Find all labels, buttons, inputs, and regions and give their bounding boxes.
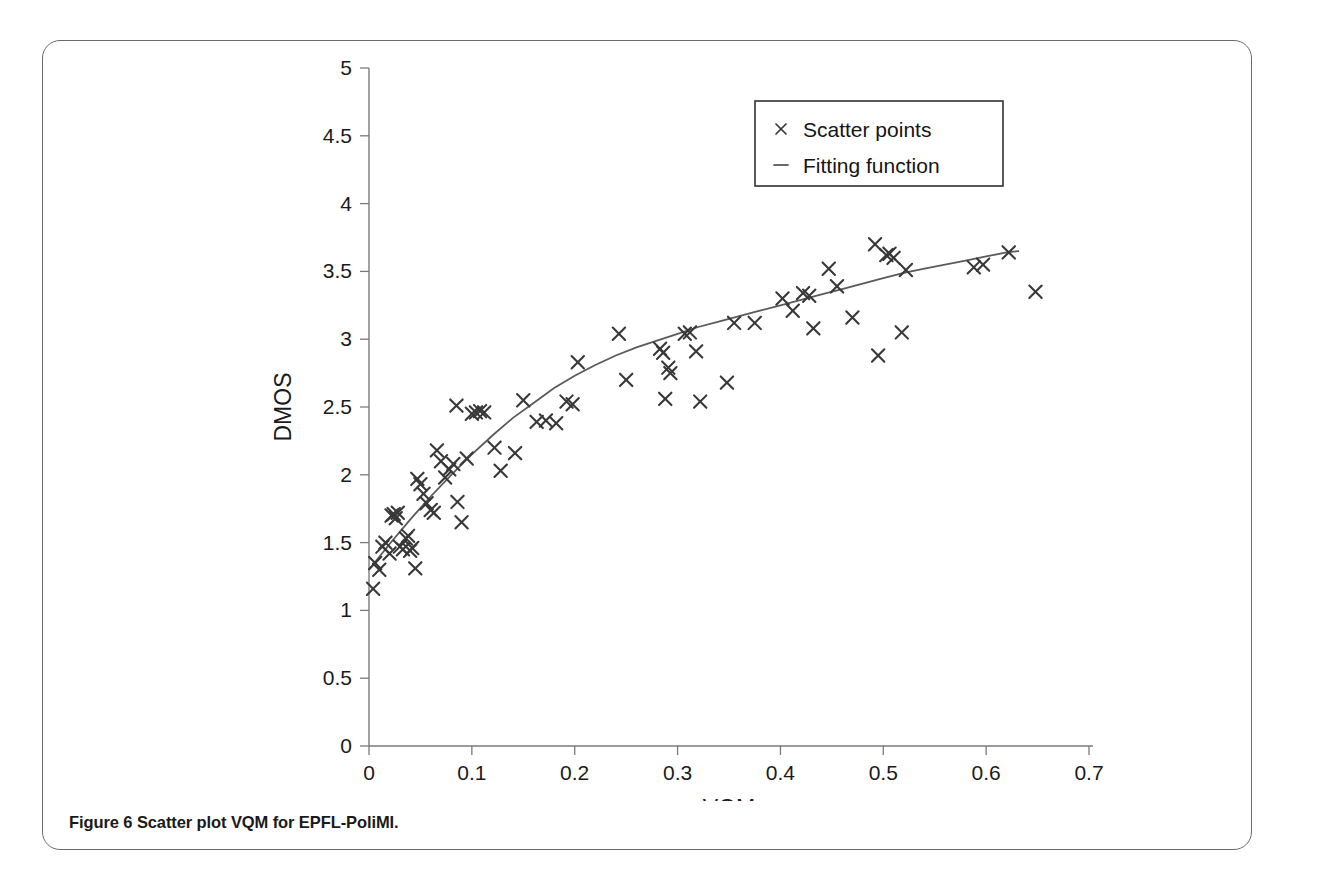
scatter-marker — [968, 261, 980, 273]
caption-label: Figure 6 — [69, 813, 132, 831]
scatter-marker — [846, 311, 858, 323]
y-tick-label: 3.5 — [323, 259, 352, 282]
scatter-marker — [659, 393, 671, 405]
y-tick-label: 1 — [340, 598, 352, 621]
x-tick-label: 0.4 — [766, 761, 796, 784]
scatter-chart: 00.10.20.30.40.50.60.700.511.522.533.544… — [43, 41, 1253, 801]
scatter-marker — [451, 496, 463, 508]
scatter-marker — [977, 258, 989, 270]
scatter-marker — [787, 305, 799, 317]
scatter-marker — [409, 562, 421, 574]
scatter-marker — [807, 322, 819, 334]
scatter-marker — [872, 349, 884, 361]
scatter-marker — [455, 516, 467, 528]
scatter-marker — [823, 262, 835, 274]
scatter-marker — [749, 317, 761, 329]
scatter-marker — [900, 264, 912, 276]
x-tick-label: 0.5 — [869, 761, 898, 784]
y-tick-label: 0 — [340, 734, 352, 757]
y-axis-title: DMOS — [270, 373, 296, 442]
y-tick-label: 1.5 — [323, 531, 352, 554]
y-tick-label: 4.5 — [323, 124, 352, 147]
scatter-marker — [369, 557, 381, 569]
scatter-marker — [550, 417, 562, 429]
scatter-marker — [420, 497, 432, 509]
legend-item-label: Scatter points — [803, 118, 931, 141]
scatter-marker — [373, 564, 385, 576]
caption-text: Scatter plot VQM for EPFL-PoliMI. — [137, 813, 399, 831]
x-tick-label: 0.6 — [972, 761, 1001, 784]
y-tick-label: 3 — [340, 327, 352, 350]
chart-legend: Scatter pointsFitting function — [755, 101, 1003, 186]
scatter-marker — [494, 465, 506, 477]
scatter-marker — [431, 444, 443, 456]
fitting-curve — [369, 251, 1019, 570]
x-tick-label: 0 — [363, 761, 375, 784]
scatter-points-group — [367, 238, 1042, 595]
scatter-marker — [417, 488, 429, 500]
fit-curve-path — [369, 251, 1019, 570]
scatter-marker — [572, 356, 584, 368]
scatter-marker — [690, 345, 702, 357]
x-tick-label: 0.3 — [663, 761, 692, 784]
y-tick-label: 0.5 — [323, 666, 352, 689]
figure-container: 00.10.20.30.40.50.60.700.511.522.533.544… — [42, 40, 1252, 850]
y-tick-label: 4 — [340, 192, 352, 215]
scatter-marker — [509, 447, 521, 459]
scatter-marker — [447, 458, 459, 470]
figure-caption: Figure 6 Scatter plot VQM for EPFL-PoliM… — [69, 813, 399, 832]
scatter-marker — [620, 374, 632, 386]
scatter-marker — [657, 347, 669, 359]
scatter-marker — [776, 292, 788, 304]
x-tick-label: 0.7 — [1074, 761, 1103, 784]
scatter-marker — [613, 328, 625, 340]
scatter-marker — [450, 399, 462, 411]
scatter-marker — [728, 317, 740, 329]
x-tick-label: 0.1 — [457, 761, 486, 784]
scatter-marker — [896, 326, 908, 338]
plot-area: 00.10.20.30.40.50.60.700.511.522.533.544… — [43, 41, 1253, 801]
scatter-marker — [414, 478, 426, 490]
x-axis-title: VQM — [703, 795, 755, 801]
y-tick-label: 5 — [340, 56, 352, 79]
x-tick-label: 0.2 — [560, 761, 589, 784]
scatter-marker — [721, 376, 733, 388]
scatter-marker — [694, 395, 706, 407]
scatter-marker — [1029, 286, 1041, 298]
legend-item-label: Fitting function — [803, 154, 940, 177]
y-tick-label: 2 — [340, 463, 352, 486]
scatter-marker — [461, 452, 473, 464]
scatter-marker — [517, 394, 529, 406]
y-tick-label: 2.5 — [323, 395, 352, 418]
scatter-marker — [488, 441, 500, 453]
